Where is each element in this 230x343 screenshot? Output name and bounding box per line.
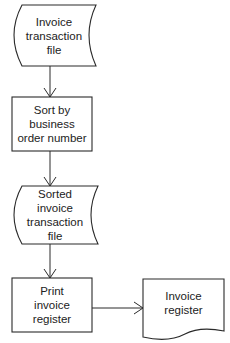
- label-line: order number: [17, 131, 86, 145]
- label-line: Sorted: [38, 187, 72, 201]
- label-line: register: [164, 303, 202, 317]
- label-line: business: [29, 117, 74, 131]
- label-line: invoice: [34, 298, 70, 312]
- label-line: invoice: [37, 201, 73, 215]
- node-label-invoice-register: Invoice register: [143, 279, 224, 327]
- label-line: Print: [40, 284, 64, 298]
- label-line: transaction: [27, 215, 83, 229]
- label-line: file: [47, 43, 62, 57]
- label-line: transaction: [26, 29, 82, 43]
- label-line: Invoice: [36, 15, 72, 29]
- node-label-sort-by-business-order-number: Sort by business order number: [12, 97, 92, 151]
- label-line: Invoice: [165, 289, 201, 303]
- label-line: file: [48, 229, 63, 243]
- label-line: Sort by: [34, 103, 70, 117]
- node-label-invoice-transaction-file: Invoice transaction file: [18, 5, 90, 66]
- label-line: register: [33, 312, 71, 326]
- node-label-sorted-invoice-transaction-file: Sorted invoice transaction file: [18, 186, 92, 244]
- node-label-print-invoice-register: Print invoice register: [12, 278, 92, 332]
